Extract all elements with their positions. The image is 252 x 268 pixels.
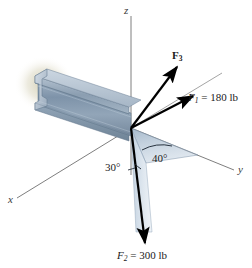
force-f2-value: = 300 lb <box>127 249 167 261</box>
force-f3-symbol: F <box>172 49 179 61</box>
force-f2-subscript: 2 <box>124 254 128 263</box>
force-vector-f3 <box>131 67 177 128</box>
force-f1-subscript: 1 <box>195 96 199 105</box>
force-label-f3: F3 <box>172 50 182 61</box>
diagram-canvas <box>0 0 252 268</box>
force-vector-f1 <box>131 96 193 128</box>
force-diagram-figure: z y x F3 F1 = 180 lb F2 = 300 lb 30° 40° <box>0 0 252 268</box>
force-label-f2: F2 = 300 lb <box>117 250 167 261</box>
force-f1-symbol: F <box>188 91 195 103</box>
force-label-f1: F1 = 180 lb <box>188 92 238 103</box>
force-f2-symbol: F <box>117 249 124 261</box>
y-axis-label: y <box>238 164 243 175</box>
z-axis-label: z <box>124 5 128 16</box>
i-beam <box>35 69 141 141</box>
force-f1-value: = 180 lb <box>198 91 238 103</box>
angle-label-40: 40° <box>152 153 167 164</box>
x-axis-label: x <box>8 194 13 205</box>
angle-label-30: 30° <box>105 162 120 173</box>
force-f3-subscript: 3 <box>179 54 183 63</box>
